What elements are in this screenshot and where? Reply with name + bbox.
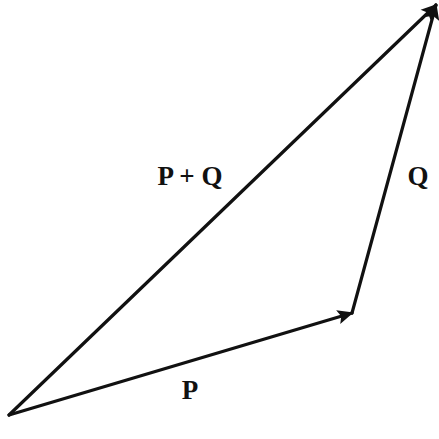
vector-q-arrow [352, 5, 436, 313]
label-p: P [182, 377, 199, 404]
vector-triangle-diagram [0, 0, 439, 439]
vector-sum-arrow [9, 5, 436, 415]
label-q: Q [407, 163, 428, 190]
label-p-plus-q: P + Q [158, 163, 223, 190]
